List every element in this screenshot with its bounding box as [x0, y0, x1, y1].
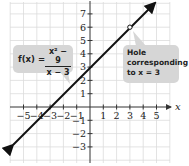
- function-lhs: f(x) =: [18, 54, 45, 64]
- svg-text:4: 4: [140, 110, 146, 121]
- svg-text:3: 3: [80, 61, 86, 72]
- svg-text:1: 1: [100, 110, 106, 121]
- svg-text:5: 5: [153, 110, 159, 121]
- svg-text:−1: −1: [72, 115, 86, 126]
- svg-text:4: 4: [80, 48, 86, 59]
- hole-callout-line-2: corresponding: [127, 58, 188, 68]
- hole-point: [128, 25, 132, 29]
- hole-callout-line-1: Hole: [127, 48, 146, 58]
- graph-figure: −5 −4 −3 −2 −1 1 2 3 4 5 7 6 5 4 3 2 1 −…: [0, 0, 189, 166]
- svg-text:5: 5: [80, 35, 86, 46]
- hole-callout-pointer: [133, 31, 146, 46]
- x-axis-label: x: [175, 101, 181, 112]
- svg-text:1: 1: [80, 88, 86, 99]
- hole-callout: Hole corresponding to x = 3: [123, 45, 179, 83]
- hole-callout-line-3: to x = 3: [127, 68, 160, 78]
- coordinate-plane: −5 −4 −3 −2 −1 1 2 3 4 5 7 6 5 4 3 2 1 −…: [0, 0, 189, 166]
- svg-text:−5: −5: [16, 110, 30, 121]
- fraction-numerator: x² − 9: [45, 47, 71, 67]
- svg-text:−2: −2: [72, 128, 86, 139]
- function-fraction: x² − 9 x − 3: [45, 47, 71, 77]
- function-callout: f(x) = x² − 9 x − 3: [13, 45, 73, 73]
- svg-text:6: 6: [80, 22, 86, 33]
- svg-text:−2: −2: [56, 110, 70, 121]
- svg-text:2: 2: [114, 110, 120, 121]
- svg-text:7: 7: [80, 8, 86, 19]
- svg-text:3: 3: [127, 110, 133, 121]
- svg-text:−3: −3: [72, 141, 86, 152]
- fraction-denominator: x − 3: [45, 67, 71, 77]
